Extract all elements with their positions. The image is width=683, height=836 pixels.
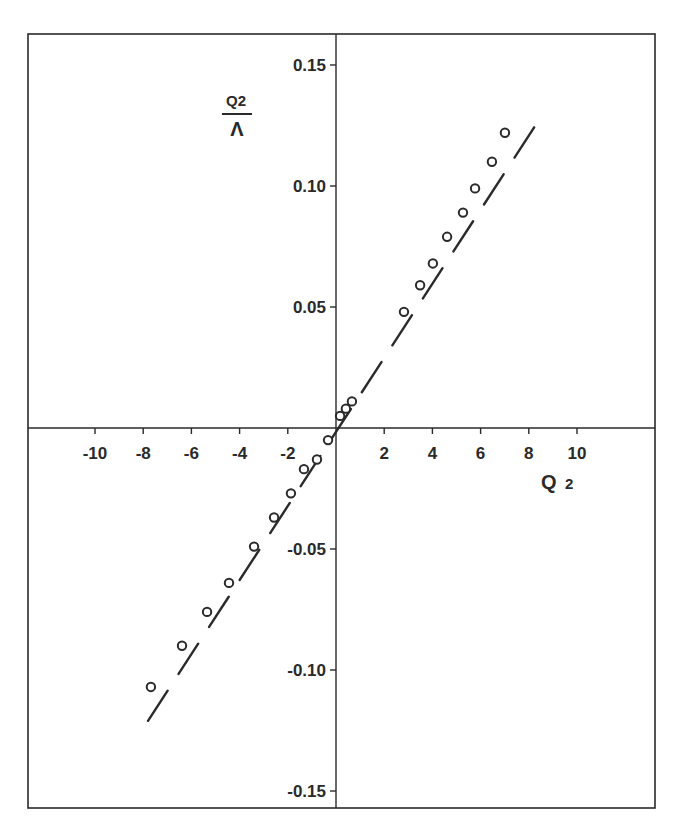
x-tick-label: -4 [232, 444, 248, 463]
data-point [459, 208, 467, 216]
data-point [300, 465, 308, 473]
data-point [287, 489, 295, 497]
data-point [400, 308, 408, 316]
scatter-chart: -10-8-6-4-2246810 0.150.100.05-0.05-0.10… [0, 0, 683, 836]
y-axis-label-denominator: Λ [230, 118, 244, 140]
data-point [225, 579, 233, 587]
x-axis-label-sub: 2 [565, 475, 573, 492]
y-tick-label: -0.15 [287, 782, 326, 801]
data-point [443, 233, 451, 241]
x-tick-label: 4 [428, 444, 438, 463]
fit-dashed-line [148, 113, 543, 720]
y-tick-label: 0.10 [293, 177, 326, 196]
data-points [147, 129, 509, 692]
y-tick-label: -0.05 [287, 540, 326, 559]
data-point [313, 455, 321, 463]
data-point [250, 542, 258, 550]
x-axis-label-main: Q [541, 471, 557, 493]
data-point [471, 184, 479, 192]
data-point [270, 513, 278, 521]
x-tick-label: 8 [524, 444, 533, 463]
data-point [324, 436, 332, 444]
data-point [429, 259, 437, 267]
data-point [348, 397, 356, 405]
x-tick-label: -8 [136, 444, 151, 463]
data-point [203, 608, 211, 616]
data-point [501, 129, 509, 137]
x-axis-label: Q 2 [541, 471, 573, 493]
x-tick-label: 2 [379, 444, 388, 463]
y-tick-label: 0.15 [293, 56, 326, 75]
y-tick-label: -0.10 [287, 661, 326, 680]
data-point [147, 683, 155, 691]
x-tick-label: -10 [83, 444, 108, 463]
x-tick-label: -2 [280, 444, 295, 463]
plot-frame [28, 34, 655, 808]
x-tick-label: 10 [568, 444, 587, 463]
y-tick-label: 0.05 [293, 298, 326, 317]
x-tick-label: -6 [184, 444, 199, 463]
data-point [342, 404, 350, 412]
data-point [178, 642, 186, 650]
y-axis-label-numerator: Q2 [226, 92, 246, 109]
x-tick-label: 6 [476, 444, 485, 463]
data-point [416, 281, 424, 289]
data-point [488, 158, 496, 166]
y-axis-label: Q2 Λ [222, 92, 252, 140]
